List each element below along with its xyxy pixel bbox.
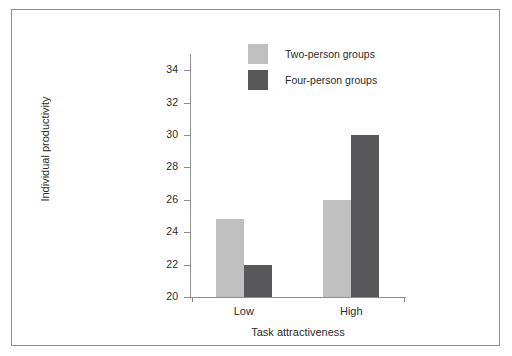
legend-item: Four-person groups [248, 67, 418, 93]
y-tick-label-wrap: 24 [138, 226, 178, 237]
legend-label-two-person: Two-person groups [285, 48, 375, 60]
y-tick-label-wrap: 28 [138, 161, 178, 172]
legend-swatch-two-person [248, 44, 268, 64]
y-tick-label: 34 [138, 64, 178, 75]
y-tick-label: 28 [138, 161, 178, 172]
bar-low-four-person [244, 265, 272, 297]
x-tick [404, 297, 405, 302]
legend-label-four-person: Four-person groups [285, 74, 377, 86]
legend-item: Two-person groups [248, 41, 418, 67]
y-tick-label-wrap: 26 [138, 194, 178, 205]
figure-frame: 2022242628303234 LowHigh Individual prod… [11, 9, 500, 346]
y-axis-title: Individual productivity [39, 69, 51, 229]
y-tick-label-wrap: 34 [138, 64, 178, 75]
y-tick-label-wrap: 30 [138, 129, 178, 140]
bar-high-two-person [323, 200, 351, 297]
x-tick [192, 297, 193, 302]
y-tick-label-wrap: 22 [138, 259, 178, 270]
y-tick-label: 30 [138, 129, 178, 140]
y-tick-label: 32 [138, 97, 178, 108]
y-tick-label: 22 [138, 259, 178, 270]
y-tick-label: 24 [138, 226, 178, 237]
y-tick-label: 26 [138, 194, 178, 205]
x-axis-title: Task attractiveness [190, 326, 406, 338]
y-tick-label: 20 [138, 291, 178, 302]
chart-legend: Two-person groups Four-person groups [248, 41, 418, 93]
legend-swatch-four-person [248, 70, 268, 90]
bar-high-four-person [351, 135, 379, 297]
y-tick-label-wrap: 32 [138, 97, 178, 108]
x-axis-line [190, 297, 406, 298]
x-tick-label: High [306, 306, 396, 317]
y-tick [184, 297, 190, 298]
y-tick-label-wrap: 20 [138, 291, 178, 302]
x-tick-label: Low [199, 306, 289, 317]
bar-low-two-person [216, 219, 244, 297]
